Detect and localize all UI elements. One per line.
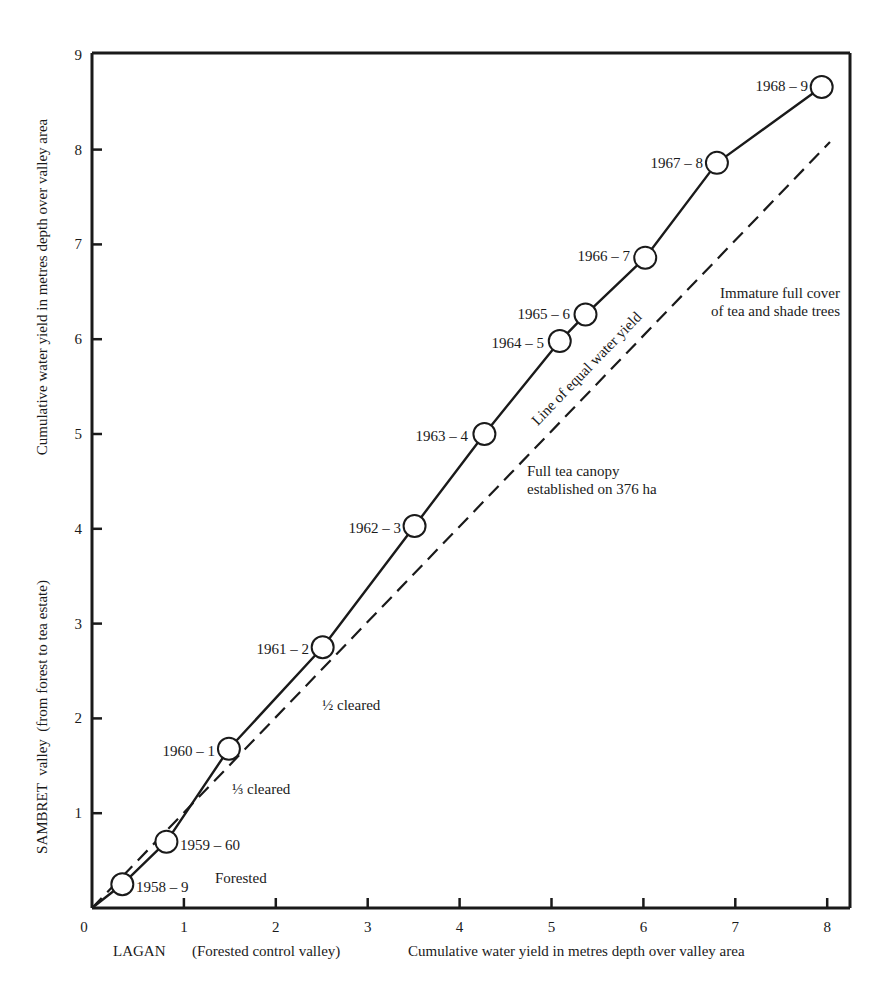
x-tick-label: 8 xyxy=(823,919,831,935)
point-label-1962-3: 1962 – 3 xyxy=(349,520,402,536)
plot-frame xyxy=(92,53,850,908)
data-point-markers xyxy=(111,76,832,895)
y-ticks: 123456789 xyxy=(75,47,103,821)
y-tick-label: 8 xyxy=(75,142,83,158)
y-tick-label: 7 xyxy=(75,236,83,252)
data-point-circle-1965-6 xyxy=(575,304,597,326)
annotations: Forested ⅓ cleared ½ cleared Line of equ… xyxy=(215,285,840,886)
x-tick-label: 3 xyxy=(364,919,372,935)
x-tick-label: 5 xyxy=(548,919,556,935)
point-labels: 1958 – 9 1959 – 60 1960 – 1 1961 – 2 196… xyxy=(136,78,808,895)
equal-yield-line xyxy=(92,142,830,908)
y-tick-label: 2 xyxy=(75,710,83,726)
y-tick-label: 5 xyxy=(75,426,83,442)
data-point-circle-1958-9 xyxy=(111,873,133,895)
y-axis-title-lower: SAMBRET valley (from forest to tea estat… xyxy=(34,580,51,854)
y-axis-title: SAMBRET valley (from forest to tea estat… xyxy=(34,118,51,854)
y-tick-label: 3 xyxy=(75,616,83,632)
point-label-1963-4: 1963 – 4 xyxy=(416,428,469,444)
x-axis-title-left: LAGAN xyxy=(113,943,166,959)
annotation-half-cleared: ½ cleared xyxy=(322,697,381,713)
x-tick-label: 7 xyxy=(732,919,740,935)
x-tick-label: 1 xyxy=(180,919,188,935)
annotation-full-canopy-2: established on 376 ha xyxy=(527,481,657,497)
y-tick-label: 1 xyxy=(75,805,83,821)
annotation-immature-1: Immature full cover xyxy=(720,285,840,301)
chart-svg: 12345678 123456789 0 1958 – 9 1959 – 60 … xyxy=(0,0,888,1007)
data-point-circle-1963-4 xyxy=(473,423,495,445)
x-tick-label: 2 xyxy=(272,919,280,935)
point-label-1965-6: 1965 – 6 xyxy=(518,306,571,322)
point-label-1958-9: 1958 – 9 xyxy=(136,879,189,895)
data-point-circle-1960-1 xyxy=(218,738,240,760)
data-point-circle-1968-9 xyxy=(811,76,833,98)
y-tick-label: 4 xyxy=(75,521,83,537)
data-point-circle-1966-7 xyxy=(634,247,656,269)
point-label-1967-8: 1967 – 8 xyxy=(651,155,704,171)
point-label-1959-60: 1959 – 60 xyxy=(180,837,240,853)
x-ticks: 12345678 xyxy=(180,898,831,935)
equal-yield-dashed-line xyxy=(92,142,830,908)
x-axis-title: LAGAN (Forested control valley) Cumulati… xyxy=(113,943,745,960)
data-point-circle-1961-2 xyxy=(312,636,334,658)
data-point-circle-1962-3 xyxy=(404,515,426,537)
data-point-circle-1967-8 xyxy=(706,152,728,174)
origin-label: 0 xyxy=(80,919,88,935)
point-label-1960-1: 1960 – 1 xyxy=(163,743,216,759)
annotation-immature-2: of tea and shade trees xyxy=(711,303,840,319)
data-point-circle-1959-60 xyxy=(155,831,177,853)
point-label-1964-5: 1964 – 5 xyxy=(492,335,545,351)
annotation-third-cleared: ⅓ cleared xyxy=(232,781,291,797)
x-tick-label: 4 xyxy=(456,919,464,935)
point-label-1966-7: 1966 – 7 xyxy=(578,248,631,264)
point-label-1968-9: 1968 – 9 xyxy=(756,78,809,94)
point-label-1961-2: 1961 – 2 xyxy=(257,641,310,657)
sambret-series-line xyxy=(92,87,822,908)
x-axis-title-middle: (Forested control valley) xyxy=(192,943,340,960)
data-point-circle-1964-5 xyxy=(549,330,571,352)
annotation-full-canopy-1: Full tea canopy xyxy=(527,463,620,479)
annotation-forested: Forested xyxy=(215,870,267,886)
sambret-solid-line xyxy=(92,87,822,908)
y-axis-title-upper: Cumulative water yield in metres depth o… xyxy=(34,118,50,455)
x-axis-title-right: Cumulative water yield in metres depth o… xyxy=(408,943,745,959)
y-tick-label: 9 xyxy=(75,47,83,63)
y-tick-label: 6 xyxy=(75,331,83,347)
x-tick-label: 6 xyxy=(640,919,648,935)
